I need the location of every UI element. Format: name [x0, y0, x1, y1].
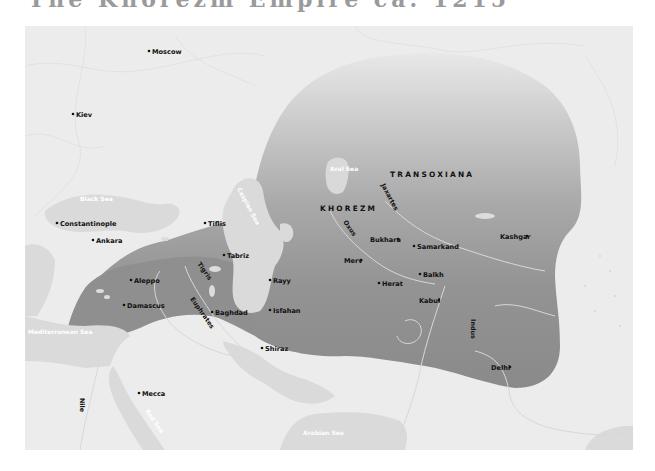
city-merv[interactable]: Merv [344, 257, 363, 265]
svg-text:Herat: Herat [382, 280, 403, 288]
river-label-nile: Nile [78, 398, 86, 413]
svg-text:Tiflis: Tiflis [208, 220, 226, 228]
svg-text:Isfahan: Isfahan [273, 307, 301, 315]
map-title: The Khorezm Empire ca. 1215 [28, 0, 510, 12]
city-kabul[interactable]: Kabul [419, 297, 440, 305]
city-bukhara[interactable]: Bukhara [370, 236, 401, 244]
svg-text:Bukhara: Bukhara [370, 236, 401, 244]
svg-text:Samarkand: Samarkand [417, 243, 459, 251]
svg-text:Constantinople: Constantinople [60, 220, 117, 228]
svg-text:Delhi: Delhi [491, 364, 510, 372]
city-tabriz[interactable]: Tabriz [223, 252, 250, 260]
region-label-khorezm: KHOREZM [320, 204, 377, 213]
svg-text:Baghdad: Baghdad [215, 309, 248, 317]
svg-text:Moscow: Moscow [152, 48, 182, 56]
city-ankara[interactable]: Ankara [92, 237, 123, 245]
city-tiflis[interactable]: Tiflis [204, 220, 226, 228]
city-rayy[interactable]: Rayy [269, 277, 292, 285]
city-mecca[interactable]: Mecca [138, 390, 166, 398]
sea-label-aral-sea: Aral Sea [330, 165, 358, 172]
svg-text:Ankara: Ankara [96, 237, 122, 245]
sea-label-black-sea: Black Sea [80, 195, 113, 202]
sea-label-arabian-sea: Arabian Sea [303, 429, 344, 436]
map-canvas: TRANSOXIANA KHOREZM Black Sea Caspian Se… [25, 26, 633, 450]
svg-text:Mecca: Mecca [142, 390, 165, 398]
city-moscow[interactable]: Moscow [148, 48, 182, 56]
map-frame: TRANSOXIANA KHOREZM Black Sea Caspian Se… [25, 26, 633, 450]
svg-text:Kiev: Kiev [76, 111, 93, 119]
city-samarkand[interactable]: Samarkand [413, 243, 460, 251]
sea-label-mediterranean-sea: Mediterranean Sea [28, 328, 93, 335]
svg-text:Shiraz: Shiraz [265, 345, 288, 353]
city-delhi[interactable]: Delhi [491, 364, 511, 372]
river-label-indus: Indus [469, 319, 477, 339]
svg-text:Aleppo: Aleppo [134, 277, 160, 285]
svg-text:Tabriz: Tabriz [227, 252, 249, 260]
city-constantinople[interactable]: Constantinople [56, 220, 117, 228]
svg-text:Damascus: Damascus [127, 302, 165, 310]
city-kashgar[interactable]: Kashgar [500, 233, 531, 241]
svg-text:Kabul: Kabul [419, 297, 440, 305]
city-herat[interactable]: Herat [378, 280, 403, 288]
city-shiraz[interactable]: Shiraz [261, 345, 289, 353]
city-damascus[interactable]: Damascus [123, 302, 165, 310]
city-isfahan[interactable]: Isfahan [269, 307, 301, 315]
city-aleppo[interactable]: Aleppo [130, 277, 161, 285]
city-baghdad[interactable]: Baghdad [211, 309, 248, 317]
region-label-transoxiana: TRANSOXIANA [390, 170, 474, 179]
svg-text:Balkh: Balkh [423, 271, 444, 279]
svg-text:Rayy: Rayy [273, 277, 292, 285]
city-balkh[interactable]: Balkh [419, 271, 444, 279]
